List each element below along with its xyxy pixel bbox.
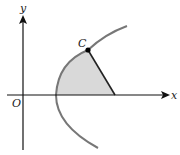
origin-label: O xyxy=(12,97,21,110)
y-axis-label: y xyxy=(19,2,27,15)
point-c-label: C xyxy=(78,37,87,50)
diagram-canvas: y x O C xyxy=(0,0,180,155)
x-axis-label: x xyxy=(171,89,178,102)
shaded-region xyxy=(56,50,115,95)
